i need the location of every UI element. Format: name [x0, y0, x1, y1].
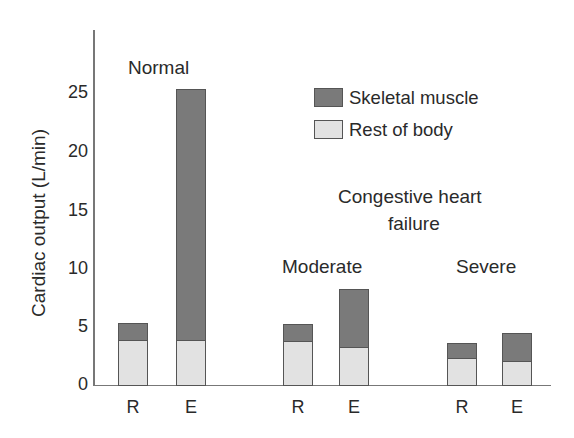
y-tick-5: 5: [58, 316, 88, 337]
y-tick-0: 0: [58, 374, 88, 395]
legend-swatch-skeletal-muscle: [314, 88, 343, 107]
legend-label-rest-of-body: Rest of body: [349, 119, 453, 141]
y-tick-15: 15: [58, 200, 88, 221]
x-tick-severe-e: E: [502, 397, 532, 418]
bar-severe-e-rest: [502, 361, 532, 386]
legend-label-skeletal-muscle: Skeletal muscle: [349, 87, 479, 109]
group-label-severe: Severe: [456, 256, 516, 278]
bar-severe-r-skeletal: [447, 343, 477, 359]
group-label-normal: Normal: [128, 57, 189, 79]
bar-normal-e-skeletal: [176, 89, 206, 341]
stacked-bar-chart: 25 20 15 10 5 0 Cardiac output (L/min) N…: [0, 0, 574, 438]
x-tick-normal-r: R: [118, 397, 148, 418]
y-axis-line: [93, 30, 95, 386]
bar-normal-e-rest: [176, 340, 206, 386]
bar-moderate-r-rest: [283, 341, 313, 386]
group-label-chf-line2: failure: [388, 213, 440, 235]
x-axis-line: [93, 385, 551, 387]
group-label-chf-line1: Congestive heart: [338, 186, 482, 208]
legend-swatch-rest-of-body: [314, 120, 343, 139]
bar-moderate-r-skeletal: [283, 324, 313, 342]
y-tick-25: 25: [58, 82, 88, 103]
bar-normal-r-skeletal: [118, 323, 148, 341]
bar-severe-e-skeletal: [502, 333, 532, 362]
group-label-moderate: Moderate: [282, 256, 362, 278]
y-tick-10: 10: [58, 258, 88, 279]
bar-severe-r-rest: [447, 358, 477, 386]
x-tick-moderate-e: E: [339, 397, 369, 418]
bar-normal-r-rest: [118, 340, 148, 386]
bar-moderate-e-skeletal: [339, 289, 369, 348]
bar-moderate-e-rest: [339, 347, 369, 386]
x-tick-normal-e: E: [176, 397, 206, 418]
x-tick-moderate-r: R: [283, 397, 313, 418]
x-tick-severe-r: R: [447, 397, 477, 418]
y-tick-20: 20: [58, 141, 88, 162]
y-axis-label: Cardiac output (L/min): [28, 123, 50, 323]
